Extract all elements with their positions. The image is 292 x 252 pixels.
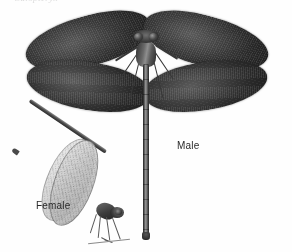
female-leg	[90, 214, 97, 233]
female-leg	[106, 217, 111, 241]
female-damselfly-figure	[0, 0, 292, 252]
female-abdomen-tip	[11, 147, 20, 155]
female-leg	[112, 218, 121, 240]
damselfly-specimen-plate: Calopteryx	[0, 0, 292, 252]
male-label: Male	[177, 140, 199, 151]
female-compound-eye	[115, 209, 122, 215]
female-label: Female	[36, 200, 71, 211]
female-leg	[98, 216, 102, 238]
